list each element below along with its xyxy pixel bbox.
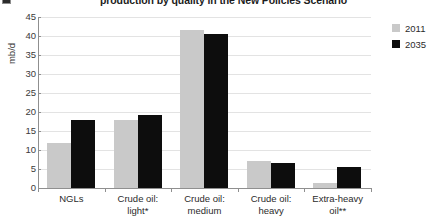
y-tick-mark	[38, 36, 41, 37]
chart-legend: 20112035	[392, 20, 442, 52]
gridline	[38, 188, 371, 189]
x-tick-mark	[105, 188, 106, 192]
chart-figure: production by quality in the New Policie…	[0, 0, 443, 224]
y-tick-mark	[38, 93, 41, 94]
title-row: production by quality in the New Policie…	[0, 0, 443, 7]
y-tick-label: 35	[14, 49, 36, 60]
y-tick-mark	[38, 169, 41, 170]
legend-label: 2011	[405, 23, 425, 34]
y-tick-label: 45	[14, 11, 36, 22]
y-tick-label: 25	[14, 87, 36, 98]
figure-number-marker-icon	[2, 0, 11, 4]
y-tick-label: 20	[14, 106, 36, 117]
y-tick-label: 0	[14, 182, 36, 193]
y-tick-label: 40	[14, 30, 36, 41]
legend-item[interactable]: 2011	[392, 20, 442, 36]
y-tick-mark	[38, 131, 41, 132]
bar-2011	[313, 183, 337, 188]
legend-swatch-icon	[392, 24, 400, 32]
y-tick-mark	[38, 74, 41, 75]
bar-group	[105, 17, 172, 188]
plot-area	[38, 17, 371, 188]
legend-swatch-icon	[392, 40, 400, 48]
bar-group	[171, 17, 238, 188]
bar-2035	[138, 115, 162, 188]
y-tick-mark	[38, 17, 41, 18]
bar-group	[304, 17, 371, 188]
x-tick-label: Extra-heavyoil**	[299, 193, 377, 216]
bar-group	[238, 17, 305, 188]
bar-group	[38, 17, 105, 188]
y-tick-label: 10	[14, 144, 36, 155]
x-tick-mark	[171, 188, 172, 192]
legend-item[interactable]: 2035	[392, 36, 442, 52]
bar-2011	[114, 120, 138, 188]
y-tick-mark	[38, 150, 41, 151]
bar-2035	[271, 163, 295, 188]
y-tick-label: 5	[14, 163, 36, 174]
y-tick-mark	[38, 112, 41, 113]
x-tick-mark	[238, 188, 239, 192]
x-tick-mark	[371, 188, 372, 192]
y-axis-ticks: 051015202530354045	[12, 17, 36, 188]
bar-2011	[47, 143, 71, 188]
legend-label: 2035	[405, 39, 426, 50]
x-tick-mark	[304, 188, 305, 192]
bar-2035	[71, 120, 95, 188]
y-tick-label: 30	[14, 68, 36, 79]
bar-2011	[247, 161, 271, 188]
bar-2011	[180, 30, 204, 188]
bar-2035	[204, 34, 228, 188]
x-tick-mark	[38, 188, 39, 192]
y-tick-label: 15	[14, 125, 36, 136]
bar-2035	[337, 167, 361, 188]
y-tick-mark	[38, 55, 41, 56]
page-title: production by quality in the New Policie…	[100, 0, 347, 6]
